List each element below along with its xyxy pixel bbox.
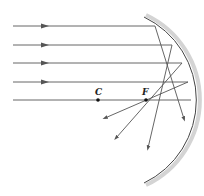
focus-label: F: [141, 87, 149, 97]
arrow-icon: [41, 61, 49, 66]
mirror-diagram: C F: [0, 0, 204, 196]
arrow-icon: [41, 43, 49, 48]
incident-arrows: [41, 24, 49, 85]
reflected-ray-2: [148, 45, 172, 148]
arrow-icon: [41, 80, 49, 85]
focus-point: [144, 98, 148, 102]
arrow-icon: [41, 24, 49, 29]
center-point: [96, 98, 100, 102]
center-label: C: [95, 87, 103, 97]
reflected-ray-3: [116, 63, 182, 138]
